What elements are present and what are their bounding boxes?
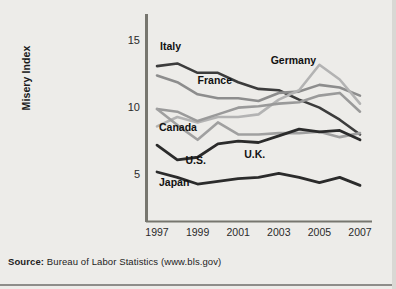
series-label-uk: U.K. — [244, 148, 265, 160]
y-tick-5: 5 — [116, 168, 140, 180]
x-tick-1999: 1999 — [181, 226, 215, 238]
figure-page: Misery Index 51015 199719992001200320052… — [0, 0, 396, 289]
series-label-japan: Japan — [159, 176, 189, 188]
misery-index-line-chart — [0, 0, 396, 248]
y-tick-15: 15 — [116, 34, 140, 46]
series-label-us: U.S. — [185, 154, 205, 166]
series-label-canada: Canada — [159, 121, 197, 133]
series-line-canada — [157, 93, 360, 121]
bottom-divider — [0, 284, 396, 286]
x-tick-2003: 2003 — [262, 226, 296, 238]
source-label: Source: — [8, 256, 44, 267]
source-value: Bureau of Labor Statistics (www.bls.gov) — [44, 256, 221, 267]
x-tick-2001: 2001 — [221, 226, 255, 238]
right-margin-band — [392, 0, 396, 289]
x-tick-2007: 2007 — [343, 226, 377, 238]
x-tick-1997: 1997 — [140, 226, 174, 238]
y-tick-10: 10 — [116, 101, 140, 113]
series-label-italy: Italy — [160, 40, 181, 52]
series-label-germany: Germany — [271, 54, 317, 66]
source-note: Source: Bureau of Labor Statistics (www.… — [8, 256, 221, 267]
series-label-france: France — [198, 74, 232, 86]
chart-figure: Misery Index 51015 199719992001200320052… — [0, 0, 396, 248]
x-tick-2005: 2005 — [302, 226, 336, 238]
y-axis-title: Misery Index — [20, 30, 32, 126]
